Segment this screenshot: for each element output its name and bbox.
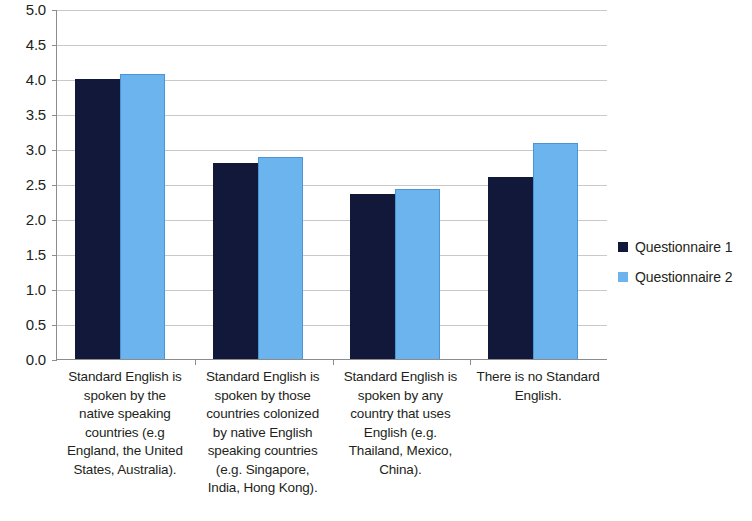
x-axis-label: Standard English isspoken by thenative s… — [56, 368, 194, 479]
legend-label: Questionnaire 1 — [635, 240, 732, 254]
x-axis-label-line: native speaking — [56, 405, 194, 424]
x-axis-category-labels: Standard English isspoken by thenative s… — [56, 368, 607, 518]
x-axis-label-line: spoken by those — [194, 387, 332, 406]
x-axis-label-line: Thailand, Mexico, — [332, 442, 470, 461]
y-tick-label: 3.5 — [0, 107, 46, 122]
bar — [395, 189, 440, 359]
plot-area — [56, 10, 607, 360]
y-tick-label: 4.5 — [0, 37, 46, 52]
x-axis-label-line: India, Hong Kong). — [194, 479, 332, 498]
bar — [488, 177, 533, 359]
x-axis-label-line: Standard English is — [332, 368, 470, 387]
bar — [213, 163, 258, 359]
x-tickmark — [195, 359, 196, 365]
chart-legend: Questionnaire 1Questionnaire 2 — [618, 232, 752, 292]
x-axis-label-line: States, Australia). — [56, 461, 194, 480]
legend-item[interactable]: Questionnaire 1 — [618, 232, 752, 262]
x-axis-label-line: speaking countries — [194, 442, 332, 461]
x-axis-label-line: There is no Standard — [469, 368, 607, 387]
bar — [533, 143, 578, 359]
bar-group — [195, 10, 333, 359]
x-axis-label-line: English (e.g. — [332, 424, 470, 443]
x-axis-label-line: England, the United — [56, 442, 194, 461]
x-axis-label-line: countries (e.g — [56, 424, 194, 443]
x-axis-label: There is no StandardEnglish. — [469, 368, 607, 405]
y-tick-label: 5.0 — [0, 2, 46, 17]
y-tick-label: 3.0 — [0, 142, 46, 157]
x-tickmark — [333, 359, 334, 365]
y-tick-label: 1.5 — [0, 247, 46, 262]
bar — [350, 194, 395, 359]
y-tick-label: 0.0 — [0, 352, 46, 367]
bar-group — [333, 10, 471, 359]
bars — [57, 10, 607, 359]
y-tick-label: 4.0 — [0, 72, 46, 87]
x-axis-label-line: Standard English is — [56, 368, 194, 387]
x-axis-label-line: by native English — [194, 424, 332, 443]
x-axis-label-line: English. — [469, 387, 607, 406]
y-tick-label: 0.5 — [0, 317, 46, 332]
y-tick-label: 1.0 — [0, 282, 46, 297]
y-tickmark — [52, 360, 57, 361]
legend-item[interactable]: Questionnaire 2 — [618, 262, 752, 292]
legend-label: Questionnaire 2 — [635, 270, 732, 284]
legend-swatch-icon — [618, 242, 628, 252]
x-axis-label-line: (e.g. Singapore, — [194, 461, 332, 480]
x-axis-label-line: Standard English is — [194, 368, 332, 387]
bar-chart: 5.04.54.03.53.02.52.01.51.00.50.0 Standa… — [0, 0, 752, 521]
x-axis-label: Standard English isspoken by anycountry … — [332, 368, 470, 479]
x-axis-label: Standard English isspoken by thosecountr… — [194, 368, 332, 498]
bar-group — [57, 10, 195, 359]
bar — [120, 74, 165, 359]
x-axis-label-line: spoken by the — [56, 387, 194, 406]
y-tick-label: 2.5 — [0, 177, 46, 192]
bar — [258, 157, 303, 359]
y-tick-label: 2.0 — [0, 212, 46, 227]
x-axis-label-line: spoken by any — [332, 387, 470, 406]
y-axis: 5.04.54.03.53.02.52.01.51.00.50.0 — [0, 0, 46, 370]
x-axis-label-line: countries colonized — [194, 405, 332, 424]
x-tickmark — [470, 359, 471, 365]
legend-swatch-icon — [618, 272, 628, 282]
x-axis-label-line: China). — [332, 461, 470, 480]
bar-group — [470, 10, 608, 359]
x-axis-label-line: country that uses — [332, 405, 470, 424]
bar — [75, 79, 120, 359]
